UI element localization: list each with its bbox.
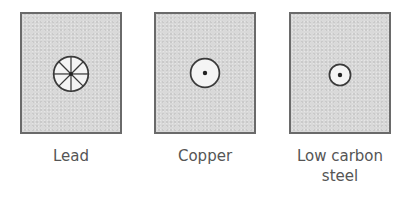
copper-panel	[154, 12, 256, 134]
copper-label: Copper	[140, 146, 270, 166]
low-carbon-steel-fracture-icon	[291, 14, 389, 132]
copper-fracture-icon	[156, 14, 254, 132]
low-carbon-steel-label: Low carbon steel	[275, 146, 402, 186]
lead-label: Lead	[6, 146, 136, 166]
lead-fracture-icon	[22, 14, 120, 132]
low-carbon-steel-label-line2: steel	[275, 166, 402, 186]
low-carbon-steel-label-line1: Low carbon	[275, 146, 402, 166]
low-carbon-steel-panel	[289, 12, 391, 134]
lead-panel	[20, 12, 122, 134]
